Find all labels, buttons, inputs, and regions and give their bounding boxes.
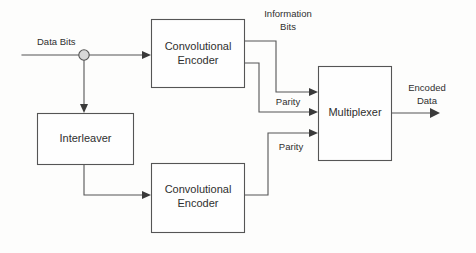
signal-split-node: [79, 50, 89, 60]
convolutional-encoder-bottom-label-line2: Encoder: [178, 197, 219, 209]
label-parity-bottom: Parity: [279, 141, 304, 152]
label-data-bits: Data Bits: [37, 36, 76, 47]
arrowhead-mux-input-parity-top: [309, 108, 318, 116]
arrowhead-bottom-encoder-input: [142, 191, 151, 199]
convolutional-encoder-bottom-label-line1: Convolutional: [165, 183, 232, 195]
wire-information-bits: [245, 41, 312, 92]
label-information-bits-line2: Bits: [280, 21, 296, 32]
arrowhead-mux-input-parity-bottom: [309, 129, 318, 137]
label-information-bits-line1: Information: [264, 8, 312, 19]
diagram-canvas: Convolutional Encoder Interleaver Convol…: [0, 0, 476, 253]
label-encoded-data-line1: Encoded: [408, 82, 446, 93]
interleaver-label: Interleaver: [60, 132, 112, 144]
arrowhead-encoded-data-output: [430, 108, 440, 118]
convolutional-encoder-top-label-line1: Convolutional: [165, 40, 232, 52]
wire-interleaver-to-bottom-encoder: [84, 164, 146, 195]
arrowhead-interleaver-input: [80, 104, 88, 113]
label-encoded-data-line2: Data: [417, 95, 438, 106]
arrowhead-mux-input-information-bits: [309, 88, 318, 96]
multiplexer-label: Multiplexer: [328, 106, 382, 118]
arrowhead-top-encoder-input: [142, 51, 151, 59]
convolutional-encoder-top-label-line2: Encoder: [178, 54, 219, 66]
label-parity-top: Parity: [276, 96, 301, 107]
turbo-encoder-diagram: Convolutional Encoder Interleaver Convol…: [0, 0, 476, 253]
